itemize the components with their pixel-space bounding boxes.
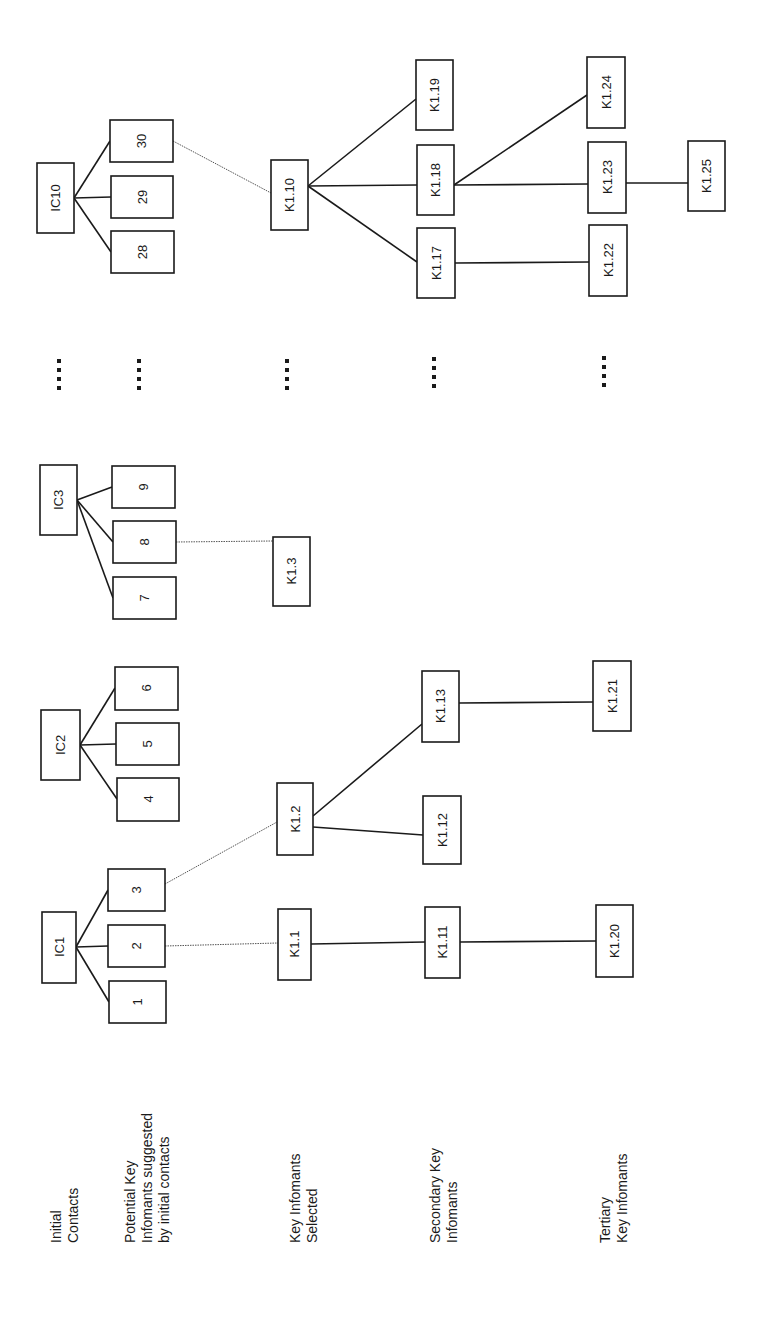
node-1: 1 <box>109 981 166 1023</box>
svg-text:28: 28 <box>135 245 150 259</box>
node-8: 8 <box>113 521 176 563</box>
svg-text:K1.18: K1.18 <box>428 163 443 197</box>
node-k1-3: K1.3 <box>273 537 310 606</box>
svg-text:K1.17: K1.17 <box>429 246 444 280</box>
node-9: 9 <box>112 466 175 508</box>
dotted-edges <box>165 141 278 946</box>
ellipsis-row-secondary <box>432 357 436 388</box>
svg-text:K1.22: K1.22 <box>601 243 616 277</box>
node-29: 29 <box>111 176 173 218</box>
svg-text:9: 9 <box>136 483 151 490</box>
row-label-secondary-key-informants: Secondary KeyInfomants <box>427 1148 460 1243</box>
svg-text:6: 6 <box>139 684 154 691</box>
svg-text:IC10: IC10 <box>48 184 63 211</box>
ellipsis-row-initial-contacts <box>57 359 61 390</box>
node-30: 30 <box>110 120 173 162</box>
svg-text:2: 2 <box>129 942 144 949</box>
nodes: IC1 3 2 1 IC2 6 5 4 IC3 9 8 7 IC10 30 29… <box>37 57 725 1023</box>
svg-text:K1.1: K1.1 <box>287 931 302 958</box>
svg-text:30: 30 <box>134 134 149 148</box>
node-k1-25: K1.25 <box>688 141 725 211</box>
svg-text:IC1: IC1 <box>52 937 67 957</box>
node-k1-21: K1.21 <box>593 661 631 731</box>
svg-text:K1.13: K1.13 <box>433 689 448 723</box>
svg-text:K1.24: K1.24 <box>599 75 614 109</box>
node-7: 7 <box>113 577 176 619</box>
node-k1-13: K1.13 <box>422 671 459 742</box>
node-k1-19: K1.19 <box>416 60 453 130</box>
node-k1-12: K1.12 <box>423 796 461 864</box>
svg-text:K1.23: K1.23 <box>600 160 615 194</box>
node-k1-22: K1.22 <box>589 225 627 296</box>
svg-text:K1.2: K1.2 <box>288 806 303 833</box>
node-k1-2: K1.2 <box>277 783 313 855</box>
svg-text:K1.10: K1.10 <box>282 178 297 212</box>
svg-text:29: 29 <box>135 190 150 204</box>
node-ic2: IC2 <box>41 710 80 780</box>
node-6: 6 <box>115 667 178 710</box>
snowball-sampling-diagram: InitialContacts Potential KeyInfomants s… <box>0 0 757 1335</box>
node-ic3: IC3 <box>40 465 77 535</box>
ellipsis-row-potential <box>137 359 141 390</box>
node-k1-18: K1.18 <box>417 145 454 215</box>
svg-text:5: 5 <box>140 740 155 747</box>
node-4: 4 <box>117 778 179 821</box>
node-k1-10: K1.10 <box>271 160 308 230</box>
node-ic10: IC10 <box>37 163 74 233</box>
svg-text:K1.19: K1.19 <box>427 78 442 112</box>
node-28: 28 <box>111 231 174 273</box>
svg-text:K1.20: K1.20 <box>607 924 622 958</box>
ellipsis-row-key-selected <box>285 359 289 390</box>
svg-text:InitialContacts: InitialContacts <box>48 1188 81 1243</box>
node-k1-20: K1.20 <box>596 905 633 977</box>
row-label-tertiary-key-informants: TertiaryKey Infomants <box>597 1154 630 1244</box>
svg-text:Secondary KeyInfomants: Secondary KeyInfomants <box>427 1148 460 1243</box>
svg-text:3: 3 <box>129 886 144 893</box>
svg-text:7: 7 <box>137 594 152 601</box>
svg-text:1: 1 <box>130 998 145 1005</box>
row-label-key-informants-selected: Key InfomantsSelected <box>287 1154 320 1244</box>
node-k1-24: K1.24 <box>587 57 625 128</box>
node-2: 2 <box>108 925 165 967</box>
node-ic1: IC1 <box>42 912 76 983</box>
svg-text:IC3: IC3 <box>51 490 66 510</box>
node-k1-1: K1.1 <box>278 909 311 980</box>
node-5: 5 <box>116 723 179 765</box>
svg-text:4: 4 <box>141 795 156 802</box>
node-k1-17: K1.17 <box>417 228 455 298</box>
node-k1-11: K1.11 <box>425 907 460 978</box>
svg-text:K1.21: K1.21 <box>605 679 620 713</box>
node-k1-23: K1.23 <box>588 142 626 213</box>
svg-text:K1.12: K1.12 <box>435 813 450 847</box>
svg-text:K1.11: K1.11 <box>435 925 450 958</box>
ellipsis-row-tertiary <box>602 356 606 387</box>
row-label-potential-key-informants: Potential KeyInfomants suggestedby initi… <box>122 1113 172 1243</box>
node-3: 3 <box>108 869 165 911</box>
row-label-initial-contacts: InitialContacts <box>48 1188 81 1243</box>
svg-text:TertiaryKey Infomants: TertiaryKey Infomants <box>597 1154 630 1244</box>
svg-text:Potential KeyInfomants suggest: Potential KeyInfomants suggestedby initi… <box>122 1113 172 1243</box>
svg-text:Key InfomantsSelected: Key InfomantsSelected <box>287 1154 320 1244</box>
svg-text:K1.3: K1.3 <box>284 558 299 585</box>
ellipsis-markers <box>57 356 606 390</box>
svg-text:8: 8 <box>137 538 152 545</box>
svg-text:K1.25: K1.25 <box>699 159 714 193</box>
svg-text:IC2: IC2 <box>53 735 68 755</box>
